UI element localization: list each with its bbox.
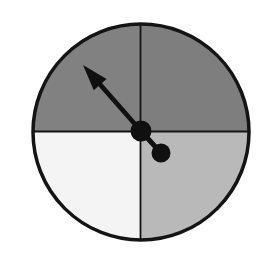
pointer-counterweight: [152, 144, 171, 163]
spinner-figure: Four-sector spinner with pointer: [0, 0, 264, 267]
spinner-canvas: Four-sector spinner with pointer: [0, 0, 264, 267]
pointer-hub[interactable]: [131, 121, 152, 142]
